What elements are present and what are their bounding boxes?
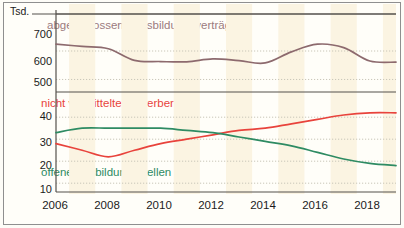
background-band: [121, 4, 147, 194]
background-band: [226, 4, 252, 194]
background-band: [69, 4, 95, 194]
background-band: [174, 4, 200, 194]
background-band: [331, 4, 357, 194]
chart-container: Tsd. 700 600 500 40 30 20 10 abgeschloss…: [0, 0, 404, 228]
background-bands: [69, 4, 396, 194]
background-band: [278, 4, 304, 194]
chart-plot-area: [0, 0, 404, 228]
